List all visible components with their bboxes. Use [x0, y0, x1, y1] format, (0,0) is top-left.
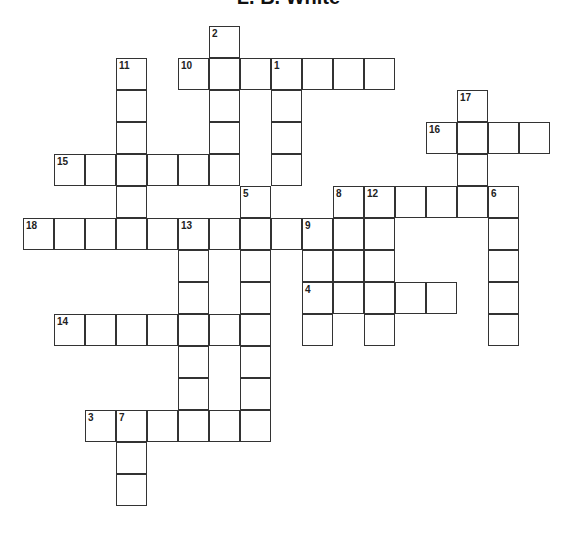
- crossword-cell[interactable]: 4: [302, 282, 333, 314]
- crossword-cell[interactable]: [333, 58, 364, 90]
- crossword-cell[interactable]: [116, 186, 147, 218]
- crossword-cell[interactable]: 11: [116, 58, 147, 90]
- crossword-cell[interactable]: [178, 282, 209, 314]
- crossword-cell[interactable]: [116, 474, 147, 506]
- crossword-cell[interactable]: [364, 282, 395, 314]
- clue-number: 18: [26, 220, 37, 231]
- crossword-cell[interactable]: [116, 90, 147, 122]
- crossword-cell[interactable]: [178, 346, 209, 378]
- crossword-cell[interactable]: [426, 282, 457, 314]
- clue-number: 9: [305, 220, 311, 231]
- crossword-cell[interactable]: [333, 218, 364, 250]
- crossword-cell[interactable]: [209, 122, 240, 154]
- crossword-cell[interactable]: [209, 58, 240, 90]
- crossword-cell[interactable]: 14: [54, 314, 85, 346]
- crossword-cell[interactable]: [240, 378, 271, 410]
- crossword-cell[interactable]: 2: [209, 26, 240, 58]
- crossword-cell[interactable]: [178, 250, 209, 282]
- crossword-cell[interactable]: 17: [457, 90, 488, 122]
- crossword-cell[interactable]: [457, 154, 488, 186]
- crossword-cell[interactable]: 13: [178, 218, 209, 250]
- crossword-cell[interactable]: [457, 122, 488, 154]
- crossword-cell[interactable]: [85, 218, 116, 250]
- clue-number: 4: [305, 284, 311, 295]
- crossword-cell[interactable]: [240, 314, 271, 346]
- crossword-cell[interactable]: 8: [333, 186, 364, 218]
- crossword-cell[interactable]: [209, 154, 240, 186]
- crossword-cell[interactable]: [271, 218, 302, 250]
- crossword-cell[interactable]: [178, 378, 209, 410]
- crossword-cell[interactable]: [426, 186, 457, 218]
- crossword-cell[interactable]: [209, 218, 240, 250]
- crossword-cell[interactable]: [116, 218, 147, 250]
- crossword-cell[interactable]: [488, 218, 519, 250]
- crossword-cell[interactable]: [85, 314, 116, 346]
- crossword-cell[interactable]: [147, 314, 178, 346]
- crossword-cell[interactable]: 7: [116, 410, 147, 442]
- crossword-cell[interactable]: [209, 314, 240, 346]
- crossword-cell[interactable]: [488, 282, 519, 314]
- crossword-cell[interactable]: [147, 154, 178, 186]
- clue-number: 11: [119, 60, 130, 71]
- clue-number: 13: [181, 220, 192, 231]
- crossword-cell[interactable]: 12: [364, 186, 395, 218]
- crossword-cell[interactable]: [147, 218, 178, 250]
- crossword-grid: 123745681291011131415161718: [0, 0, 577, 540]
- crossword-cell[interactable]: [240, 410, 271, 442]
- crossword-cell[interactable]: [364, 58, 395, 90]
- clue-number: 14: [57, 316, 68, 327]
- crossword-cell[interactable]: [147, 410, 178, 442]
- crossword-cell[interactable]: [240, 250, 271, 282]
- clue-number: 7: [119, 412, 125, 423]
- crossword-cell[interactable]: [54, 218, 85, 250]
- crossword-cell[interactable]: [488, 314, 519, 346]
- crossword-cell[interactable]: 18: [23, 218, 54, 250]
- crossword-cell[interactable]: 5: [240, 186, 271, 218]
- crossword-cell[interactable]: [333, 282, 364, 314]
- crossword-cell[interactable]: [85, 154, 116, 186]
- clue-number: 1: [274, 60, 280, 71]
- crossword-cell[interactable]: [302, 250, 333, 282]
- crossword-cell[interactable]: [488, 122, 519, 154]
- crossword-cell[interactable]: [364, 250, 395, 282]
- crossword-cell[interactable]: [240, 58, 271, 90]
- crossword-cell[interactable]: [395, 282, 426, 314]
- crossword-cell[interactable]: [240, 282, 271, 314]
- clue-number: 3: [88, 412, 94, 423]
- crossword-cell[interactable]: [209, 410, 240, 442]
- crossword-cell[interactable]: [271, 122, 302, 154]
- crossword-cell[interactable]: [240, 346, 271, 378]
- crossword-cell[interactable]: 10: [178, 58, 209, 90]
- crossword-cell[interactable]: [116, 314, 147, 346]
- crossword-cell[interactable]: [519, 122, 550, 154]
- crossword-cell[interactable]: [488, 250, 519, 282]
- crossword-cell[interactable]: [116, 122, 147, 154]
- crossword-cell[interactable]: 16: [426, 122, 457, 154]
- crossword-cell[interactable]: [364, 314, 395, 346]
- crossword-cell[interactable]: [333, 250, 364, 282]
- crossword-cell[interactable]: [271, 154, 302, 186]
- crossword-cell[interactable]: [302, 58, 333, 90]
- crossword-cell[interactable]: 1: [271, 58, 302, 90]
- crossword-cell[interactable]: [178, 154, 209, 186]
- clue-number: 12: [367, 188, 378, 199]
- clue-number: 2: [212, 28, 218, 39]
- crossword-cell[interactable]: [457, 186, 488, 218]
- crossword-cell[interactable]: [209, 90, 240, 122]
- crossword-cell[interactable]: 3: [85, 410, 116, 442]
- crossword-cell[interactable]: [178, 410, 209, 442]
- crossword-cell[interactable]: [178, 314, 209, 346]
- crossword-cell[interactable]: [364, 218, 395, 250]
- crossword-cell[interactable]: 15: [54, 154, 85, 186]
- crossword-cell[interactable]: [302, 314, 333, 346]
- crossword-cell[interactable]: [395, 186, 426, 218]
- crossword-cell[interactable]: [271, 90, 302, 122]
- crossword-cell[interactable]: [116, 154, 147, 186]
- clue-number: 10: [181, 60, 192, 71]
- crossword-cell[interactable]: [116, 442, 147, 474]
- clue-number: 5: [243, 188, 249, 199]
- crossword-cell[interactable]: [240, 218, 271, 250]
- crossword-cell[interactable]: 9: [302, 218, 333, 250]
- clue-number: 16: [429, 124, 440, 135]
- crossword-cell[interactable]: 6: [488, 186, 519, 218]
